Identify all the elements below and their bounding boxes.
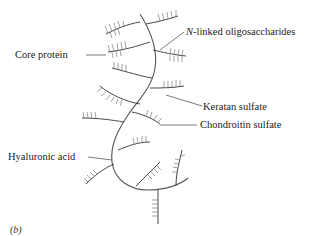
label-chondroitin-sulfate: Chondroitin sulfate bbox=[200, 120, 281, 131]
proteoglycan-branch bbox=[150, 80, 184, 88]
proteoglycan-branch bbox=[108, 41, 150, 58]
proteoglycan-branch bbox=[132, 110, 162, 124]
proteoglycan-branch bbox=[146, 10, 178, 24]
proteoglycan-branch bbox=[153, 48, 186, 62]
label-hyaluronic-acid: Hyaluronic acid bbox=[8, 152, 75, 163]
hyaluronic-acid-leader bbox=[88, 157, 112, 160]
proteoglycan-branch bbox=[82, 112, 124, 122]
keratan-sulfate-leader bbox=[166, 95, 202, 106]
label-core-protein: Core protein bbox=[15, 50, 68, 61]
panel-label: (b) bbox=[10, 224, 22, 235]
proteoglycan-branch bbox=[136, 162, 161, 186]
proteoglycan-branch bbox=[97, 86, 140, 106]
proteoglycan-branch bbox=[105, 21, 140, 38]
proteoglycan-branch bbox=[152, 190, 158, 224]
proteoglycan-branch bbox=[112, 62, 152, 78]
label-n-linked-oligosaccharides: N-linked oligosaccharides bbox=[186, 27, 295, 38]
label-keratan-sulfate: Keratan sulfate bbox=[203, 102, 267, 113]
proteoglycan-branch bbox=[172, 150, 185, 186]
proteoglycan-branch bbox=[118, 136, 150, 150]
proteoglycan-branch bbox=[84, 164, 114, 184]
n-linked-leader bbox=[160, 32, 184, 50]
